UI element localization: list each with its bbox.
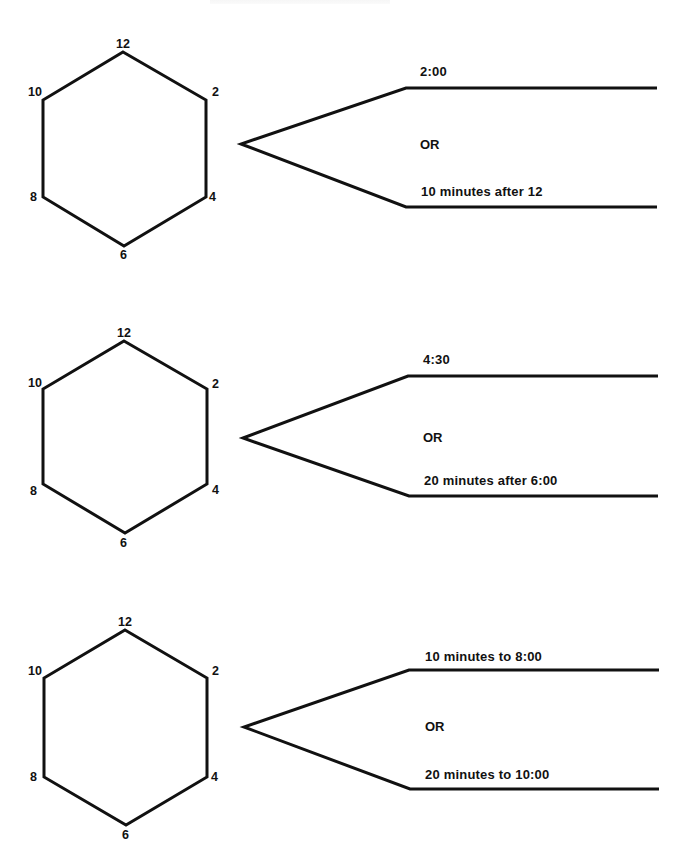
answer-option-top: 2:00 (420, 65, 447, 78)
clock-2-label-8: 8 (30, 485, 37, 498)
clock-1-label-2: 2 (212, 86, 219, 99)
answer-option-top: 10 minutes to 8:00 (425, 650, 542, 663)
clock-3-label-4: 4 (211, 771, 218, 784)
answer-option-bottom: 20 minutes after 6:00 (424, 474, 558, 487)
hexagon-clock-1 (43, 52, 206, 246)
or-connector: OR (423, 431, 443, 444)
clock-1-label-10: 10 (28, 86, 42, 99)
clock-2-label-10: 10 (28, 377, 42, 390)
or-connector: OR (425, 720, 445, 733)
answer-option-bottom: 20 minutes to 10:00 (425, 768, 549, 781)
or-connector: OR (420, 138, 440, 151)
clock-3-label-12: 12 (118, 616, 132, 629)
clock-3-label-6: 6 (122, 829, 129, 842)
answer-option-bottom: 10 minutes after 12 (421, 185, 543, 198)
clock-3-label-2: 2 (212, 665, 219, 678)
clock-1-label-8: 8 (30, 191, 37, 204)
hexagon-clock-2 (43, 341, 207, 533)
clock-2-label-12: 12 (117, 327, 131, 340)
clock-2-label-2: 2 (212, 378, 219, 391)
clock-3-label-8: 8 (30, 771, 37, 784)
clock-1-label-6: 6 (120, 249, 127, 262)
clock-2-label-4: 4 (212, 484, 219, 497)
clock-1-label-4: 4 (209, 191, 216, 204)
worksheet-drawing (0, 0, 687, 848)
clock-3-label-10: 10 (28, 665, 42, 678)
clock-1-label-12: 12 (116, 38, 130, 51)
clock-2-label-6: 6 (120, 537, 127, 550)
answer-option-top: 4:30 (423, 353, 450, 366)
hexagon-clock-3 (44, 630, 207, 825)
